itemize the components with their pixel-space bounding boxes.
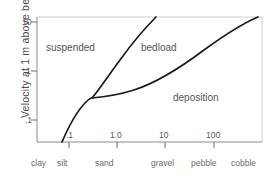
chart-plot-area xyxy=(0,0,271,180)
region-label-bedload: bedload xyxy=(141,42,177,53)
category-label-silt: silt xyxy=(57,158,67,168)
x-tick-label-10: 10 xyxy=(159,130,168,140)
erosion-threshold-curve xyxy=(62,17,156,142)
region-label-suspended: suspended xyxy=(46,42,95,53)
y-tick-label-1: 1 xyxy=(26,66,31,76)
category-label-cobble: cobble xyxy=(231,158,256,168)
x-tick-label-100: 100 xyxy=(206,130,220,140)
category-label-gravel: gravel xyxy=(151,158,174,168)
x-tick-label-1: 1.0 xyxy=(110,130,122,140)
y-tick-label-point1: .1 xyxy=(25,115,32,125)
y-tick-label-10: 10 xyxy=(22,17,31,27)
category-label-pebble: pebble xyxy=(191,158,217,168)
region-label-deposition: deposition xyxy=(173,92,219,103)
deposition-threshold-curve xyxy=(92,17,258,98)
y-axis-ticks xyxy=(31,22,37,120)
category-label-sand: sand xyxy=(95,158,113,168)
x-axis-ticks xyxy=(69,142,214,148)
hjulstrom-diagram-figure: Velocity at 1 m above bed (m/s) 10 1 .1 … xyxy=(0,0,271,180)
category-label-clay: clay xyxy=(31,158,46,168)
x-tick-label-point1: .1 xyxy=(66,130,73,140)
